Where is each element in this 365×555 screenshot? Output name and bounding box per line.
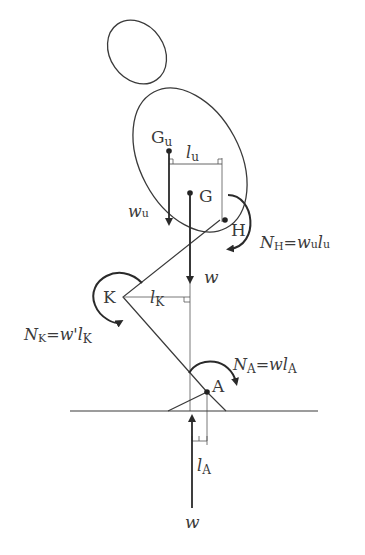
label-Gu: Gu <box>151 127 173 149</box>
label-wu: wu <box>128 202 149 221</box>
moment-NH-equation: NH=wulu <box>259 233 330 253</box>
label-w-up: w <box>185 512 200 532</box>
label-K: K <box>103 287 116 307</box>
moment-NA-equation: NA=wlA <box>232 355 297 376</box>
point-H <box>222 217 228 223</box>
label-lK: lK <box>150 288 165 309</box>
leg-segments <box>123 220 220 392</box>
point-A <box>204 389 210 395</box>
free-body-diagram: Gu G H K A lu wu w lK lA w NH=wulu NK=w'… <box>0 0 365 555</box>
moment-NK-equation: NK=w'lK <box>23 325 93 346</box>
label-A: A <box>211 376 225 396</box>
label-H: H <box>231 220 246 240</box>
head-shape <box>95 9 178 96</box>
label-lu: lu <box>186 143 199 164</box>
label-G: G <box>199 186 213 206</box>
moment-K-arrow <box>93 273 142 323</box>
label-w-down: w <box>204 267 219 287</box>
label-lA: lA <box>197 456 211 477</box>
